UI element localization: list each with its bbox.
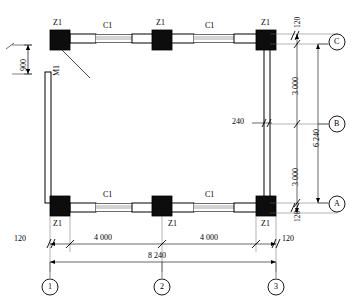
grid-label-2: 2	[160, 283, 164, 291]
dimension-chain-right-inner	[294, 34, 300, 213]
grid-label-c: C	[334, 38, 339, 46]
structural-floor-plan: Z1 Z1 Z1 C1 C1 C1 C1 Z1 Z1 Z1 M1 900 240…	[0, 0, 360, 307]
grid-bubble-a	[318, 196, 345, 212]
column-z1-1c	[50, 30, 70, 50]
beam-c1-bottom-right	[170, 203, 258, 212]
grid-label-1: 1	[48, 283, 52, 291]
label-c1-bottom-left: C1	[103, 191, 112, 199]
label-m1-wall: M1	[53, 65, 61, 76]
label-z1-bottom-left: Z1	[53, 220, 62, 228]
label-dim-6240: 6 240	[313, 129, 321, 147]
grid-label-a: A	[334, 200, 340, 208]
dimension-chain-bottom-inner	[50, 240, 276, 248]
label-dim-120-right-bottom: 120	[294, 211, 302, 222]
label-dim-4000-left: 4 000	[94, 234, 112, 242]
label-c1-top-left: C1	[103, 22, 112, 30]
plan-drawing-canvas	[0, 0, 360, 307]
label-dim-3000-upper: 3 000	[292, 77, 300, 95]
label-dim-120-top-right: 120	[294, 17, 302, 28]
wall-m1-left	[45, 72, 51, 203]
label-dim-240: 240	[232, 118, 244, 126]
label-dim-4000-right: 4 000	[200, 234, 218, 242]
extension-lines-right	[270, 34, 338, 213]
label-z1-top-mid: Z1	[156, 19, 165, 27]
grid-label-b: B	[334, 120, 339, 128]
label-dim-120-bottom-left: 120	[14, 235, 26, 243]
label-z1-top-left: Z1	[53, 19, 62, 27]
dimension-chain-right-outer	[316, 44, 320, 203]
beam-c1-bottom-left	[70, 203, 154, 212]
label-z1-bottom-right: Z1	[261, 220, 270, 228]
grid-bubble-c	[318, 34, 345, 50]
label-dim-3000-lower: 3 000	[292, 168, 300, 186]
column-z1-3c	[256, 30, 276, 50]
column-z1-2a	[152, 196, 172, 216]
grid-bubble-b	[318, 116, 345, 132]
label-dim-120-bottom-right: 120	[282, 235, 294, 243]
label-c1-top-right: C1	[205, 22, 214, 30]
grid-label-3: 3	[274, 283, 278, 291]
dimension-chain-bottom-outer	[50, 260, 276, 264]
label-dim-8240: 8 240	[148, 252, 166, 260]
beam-c1-top-left	[70, 34, 154, 43]
beam-c1-top-right	[170, 34, 258, 43]
label-c1-bottom-right: C1	[205, 191, 214, 199]
column-z1-2c	[152, 30, 172, 50]
column-z1-1a	[50, 196, 70, 216]
label-dim-900: 900	[20, 59, 28, 71]
label-z1-bottom-mid: Z1	[168, 220, 177, 228]
leader-line-m1	[62, 50, 90, 78]
label-z1-top-right: Z1	[261, 19, 270, 27]
